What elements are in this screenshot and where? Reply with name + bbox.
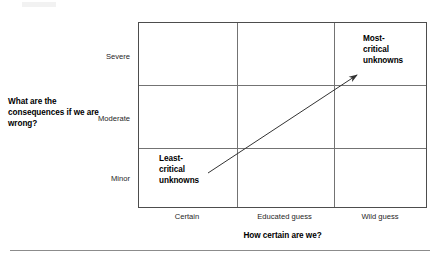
matrix-plot-area: Least- critical unknowns Most- critical …: [138, 22, 427, 208]
page-bottom-rule: [10, 250, 430, 251]
y-axis-tick-severe: Severe: [68, 52, 130, 61]
y-axis-tick-moderate: Moderate: [68, 114, 130, 123]
scan-artifact: [22, 2, 56, 7]
y-axis-tick-minor: Minor: [68, 174, 130, 183]
annotation-least-critical-unknowns: Least- critical unknowns: [159, 153, 233, 187]
annotation-most-critical-unknowns: Most- critical unknowns: [363, 33, 433, 67]
y-axis-title: What are the consequences if we are wron…: [8, 96, 104, 130]
x-axis-tick-educated-guess: Educated guess: [236, 212, 333, 221]
x-axis-title: How certain are we?: [138, 231, 427, 240]
x-axis-tick-wild-guess: Wild guess: [333, 212, 427, 221]
x-axis-tick-certain: Certain: [138, 212, 236, 221]
